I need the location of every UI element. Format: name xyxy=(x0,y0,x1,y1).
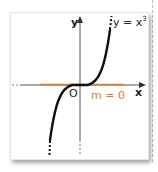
curve-dotted-bottom xyxy=(50,141,51,155)
tangent-label: m = 0 xyxy=(91,90,125,101)
curve-dotted-top xyxy=(110,16,112,29)
y-axis-label: y xyxy=(71,17,78,28)
curve-label: y = x3 xyxy=(113,16,147,28)
curve-label-exponent: 3 xyxy=(142,15,146,23)
origin-label: O xyxy=(69,88,78,99)
x-axis-label: x xyxy=(135,87,142,98)
curve-label-text: y = x xyxy=(113,16,142,29)
